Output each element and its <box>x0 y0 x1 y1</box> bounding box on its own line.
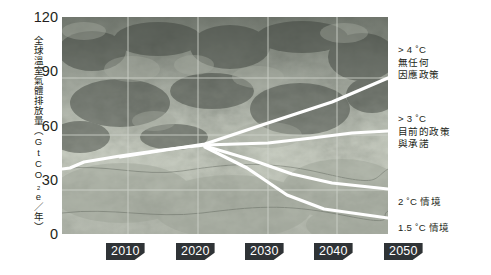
emission-pathway-lines <box>62 17 388 234</box>
x-axis-tick-2020: 2020 <box>176 243 215 260</box>
y-axis-tick-60: 60 <box>12 119 58 134</box>
annotation-3c-line3: 與承諾 <box>398 138 450 151</box>
line-1p5c-scenario <box>205 147 388 218</box>
x-axis-tick-2010: 2010 <box>106 243 145 260</box>
annotation-3c-line2: 目前的政策 <box>398 126 450 139</box>
annotation-1p5c-scenario: 1.5 ˚C 情境 <box>398 222 450 235</box>
x-axis-tick-2030: 2030 <box>245 243 284 260</box>
plot-area <box>62 17 388 234</box>
line-2c-scenario <box>205 146 388 189</box>
annotation-3c-current-policies: > 3 ˚C 目前的政策 與承諾 <box>398 113 450 151</box>
y-axis-tick-0: 0 <box>12 227 58 242</box>
x-axis-tick-2040: 2040 <box>314 243 353 260</box>
annotation-3c-temp: > 3 ˚C <box>398 113 450 126</box>
annotation-4c-no-policy: > 4 ˚C 無任何 因應政策 <box>398 44 440 82</box>
annotation-4c-temp: > 4 ˚C <box>398 44 440 57</box>
x-axis-tick-2050: 2050 <box>384 243 423 260</box>
y-axis-tick-120: 120 <box>12 10 58 25</box>
annotation-1p5c-temp: 1.5 ˚C 情境 <box>398 222 450 235</box>
y-axis-ticks: 1209060300 <box>10 0 58 275</box>
annotation-4c-line3: 因應政策 <box>398 69 440 82</box>
annotation-2c-scenario: 2 ˚C 情境 <box>398 196 441 209</box>
annotation-2c-temp: 2 ˚C 情境 <box>398 196 441 209</box>
y-axis-tick-30: 30 <box>12 173 58 188</box>
y-axis-tick-90: 90 <box>12 64 58 79</box>
chart-screenshot: 全球溫室氣體排放量（GtCO₂e／年） 1209060300 <box>0 0 491 275</box>
line-3c-current-policies <box>205 131 388 145</box>
line-4c-no-policy <box>120 78 388 157</box>
annotation-4c-line2: 無任何 <box>398 57 440 70</box>
